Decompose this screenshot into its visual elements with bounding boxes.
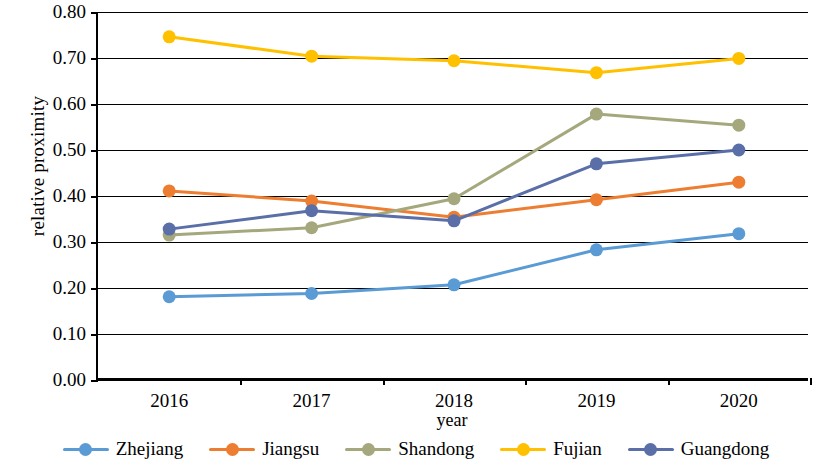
data-point [590, 243, 603, 256]
data-point [590, 108, 603, 121]
data-point [163, 290, 176, 303]
data-point [305, 204, 318, 217]
y-tick-label: 0.40 [53, 185, 86, 207]
legend-label: Jiangsu [262, 438, 319, 460]
y-tick-mark [91, 150, 98, 152]
x-tick-label: 2016 [150, 390, 188, 412]
data-point [305, 287, 318, 300]
gridline [98, 380, 808, 381]
data-point [163, 184, 176, 197]
y-tick-mark [91, 242, 98, 244]
x-axis-title: year [96, 410, 808, 431]
line-chart: relative proximity 0.000.100.200.300.400… [0, 0, 832, 472]
x-tick-label: 2017 [293, 390, 331, 412]
legend-label: Zhejiang [116, 438, 184, 460]
y-tick-label: 0.30 [53, 231, 86, 253]
series-zhejiang [163, 227, 746, 303]
y-tick-label: 0.00 [53, 369, 86, 391]
data-point [590, 66, 603, 79]
y-tick-label: 0.10 [53, 323, 86, 345]
x-tick-label: 2018 [435, 390, 473, 412]
y-tick-mark [91, 380, 98, 382]
data-point [732, 144, 745, 157]
legend-swatch-icon [209, 442, 255, 456]
x-tick-label: 2019 [577, 390, 615, 412]
legend-swatch-icon [63, 442, 109, 456]
x-tick-mark [810, 378, 812, 385]
data-point [305, 221, 318, 234]
plot-area: 0.000.100.200.300.400.500.600.700.80 201… [96, 12, 808, 380]
y-tick-label: 0.80 [53, 1, 86, 23]
data-point [448, 214, 461, 227]
series-fujian [163, 30, 746, 79]
y-tick-label: 0.70 [53, 47, 86, 69]
y-tick-mark [91, 58, 98, 60]
data-point [732, 52, 745, 65]
series-layer [98, 12, 810, 380]
y-tick-label: 0.20 [53, 277, 86, 299]
legend-swatch-icon [628, 442, 674, 456]
legend: ZhejiangJiangsuShandongFujianGuangdong [0, 438, 832, 460]
legend-item-fujian[interactable]: Fujian [500, 438, 602, 460]
x-tick-label: 2020 [720, 390, 758, 412]
data-point [732, 119, 745, 132]
y-tick-mark [91, 12, 98, 14]
legend-item-guangdong[interactable]: Guangdong [628, 438, 770, 460]
data-point [590, 157, 603, 170]
data-point [163, 223, 176, 236]
data-point [448, 192, 461, 205]
legend-item-zhejiang[interactable]: Zhejiang [63, 438, 184, 460]
y-tick-mark [91, 104, 98, 106]
legend-label: Guangdong [681, 438, 770, 460]
data-point [590, 193, 603, 206]
y-tick-label: 0.60 [53, 93, 86, 115]
legend-swatch-icon [500, 442, 546, 456]
legend-swatch-icon [345, 442, 391, 456]
data-point [163, 30, 176, 43]
data-point [732, 176, 745, 189]
y-axis-title: relative proximity [27, 36, 49, 296]
y-tick-label: 0.50 [53, 139, 86, 161]
legend-item-jiangsu[interactable]: Jiangsu [209, 438, 319, 460]
legend-label: Fujian [553, 438, 602, 460]
data-point [305, 50, 318, 63]
legend-item-shandong[interactable]: Shandong [345, 438, 474, 460]
y-tick-mark [91, 334, 98, 336]
y-tick-mark [91, 196, 98, 198]
series-guangdong [163, 144, 746, 236]
y-tick-mark [91, 288, 98, 290]
legend-label: Shandong [398, 438, 474, 460]
data-point [448, 54, 461, 67]
data-point [732, 227, 745, 240]
data-point [448, 278, 461, 291]
